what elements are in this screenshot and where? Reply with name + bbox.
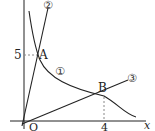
origin-label: O bbox=[29, 121, 38, 131]
point-a-label: A bbox=[38, 48, 48, 62]
y-tick-label-5: 5 bbox=[14, 48, 22, 62]
line-3-label: ③ bbox=[127, 72, 137, 85]
point-b-label: B bbox=[98, 81, 107, 95]
curve-1-hyperbola bbox=[29, 11, 136, 117]
coordinate-graph: 5 A B 4 O x ① ② ③ bbox=[0, 0, 155, 131]
line-2-label: ② bbox=[43, 0, 53, 12]
x-tick-label-4: 4 bbox=[101, 121, 108, 131]
x-axis-label: x bbox=[144, 119, 151, 131]
curve-1-label: ① bbox=[55, 65, 65, 78]
